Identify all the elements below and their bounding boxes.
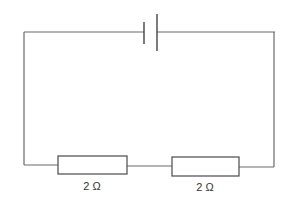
resistor-1-label: 2 Ω — [83, 180, 100, 192]
resistor-2-label: 2 Ω — [196, 181, 213, 193]
resistor-1: 2 Ω — [58, 156, 127, 192]
resistor-2-body — [172, 157, 239, 176]
resistor-1-body — [58, 156, 127, 174]
circuit-diagram: 2 Ω 2 Ω — [0, 0, 290, 210]
resistor-2: 2 Ω — [172, 157, 239, 193]
battery-cell-icon — [144, 14, 157, 51]
